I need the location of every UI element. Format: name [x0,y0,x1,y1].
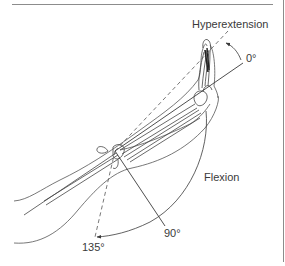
one-thirty-five-degree-line [95,151,115,237]
zero-degree-label: 0° [246,52,257,64]
zero-degree-line [115,63,243,151]
ninety-degree-label: 90° [164,227,181,239]
hyperextension-line [115,31,228,151]
elbow-range-of-motion-diagram [0,0,285,266]
forearm-bones [24,104,201,215]
flexion-label: Flexion [204,171,239,183]
ninety-degree-line [115,151,165,226]
flexion-arc [97,111,207,237]
hyperextension-label: Hyperextension [192,18,268,30]
one-thirty-five-degree-label: 135° [82,241,105,253]
hyperextension-arrow [226,43,241,60]
